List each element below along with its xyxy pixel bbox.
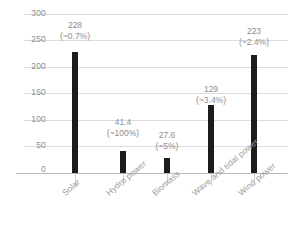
bar-solar [72, 52, 78, 173]
bar-wave-and-tidal-power [208, 105, 214, 173]
plot-area: 300 250 200 150 100 50 0 228 (~0.7%) 41.… [0, 0, 295, 243]
value-label-biomass-value: 27.6 [137, 130, 197, 141]
bar-hydro-power [120, 151, 126, 173]
bar-chart: 300 250 200 150 100 50 0 228 (~0.7%) 41.… [0, 0, 295, 243]
value-label-wind-power-note: (~2.4%) [224, 37, 284, 48]
y-tick-label-150: 150 [12, 88, 46, 97]
value-label-solar-note: (~0.7%) [45, 31, 105, 42]
value-label-wind-power: 223 (~2.4%) [224, 26, 284, 47]
y-tick-label-200: 200 [12, 62, 46, 71]
value-label-biomass: 27.6 (~5%) [137, 130, 197, 151]
y-tick-label-300: 300 [12, 9, 46, 18]
value-label-solar: 228 (~0.7%) [45, 20, 105, 41]
value-label-wind-power-value: 223 [224, 26, 284, 37]
value-label-hydro-power-value: 41.4 [93, 117, 153, 128]
y-tick-label-250: 250 [12, 35, 46, 44]
y-tick-label-100: 100 [12, 115, 46, 124]
bar-biomass [164, 158, 170, 173]
gridline-200 [24, 67, 288, 68]
value-label-wave-and-tidal-power: 129 (~3.4%) [181, 84, 241, 105]
value-label-biomass-note: (~5%) [137, 141, 197, 152]
x-axis-baseline [16, 173, 288, 174]
gridline-300 [24, 14, 288, 15]
y-tick-label-50: 50 [12, 141, 46, 150]
value-label-solar-value: 228 [45, 20, 105, 31]
value-label-wave-and-tidal-power-note: (~3.4%) [181, 95, 241, 106]
bar-wind-power [251, 55, 257, 173]
gridline-100 [24, 120, 288, 121]
x-axis-label-solar: Solar [60, 177, 82, 198]
y-tick-label-0: 0 [12, 165, 46, 174]
gridline-150 [24, 93, 288, 94]
value-label-wave-and-tidal-power-value: 129 [181, 84, 241, 95]
x-axis-label-hydro-power: Hydro power [104, 158, 148, 197]
